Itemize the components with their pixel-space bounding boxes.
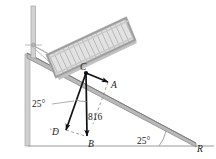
label-point-r: R <box>196 144 203 154</box>
label-force-magnitude: 816 <box>88 112 103 122</box>
dashed-d-to-b <box>66 130 85 136</box>
label-point-b: B <box>88 139 94 149</box>
label-angle-incline: 25° <box>137 136 151 146</box>
label-point-d: D <box>51 127 59 137</box>
label-point-a: A <box>110 80 117 90</box>
left-wall <box>25 54 30 146</box>
angle-arc-at-c <box>76 100 87 102</box>
crate-group <box>40 10 145 90</box>
figure-canvas: C A B D R 816 25° 25° <box>0 0 216 159</box>
angle-leader-left <box>52 101 74 104</box>
vector-c-to-a <box>86 73 108 82</box>
label-angle-cable: 25° <box>32 99 46 109</box>
vector-c-to-b <box>86 73 87 136</box>
vertical-pole <box>31 6 36 58</box>
angle-arc-at-r <box>159 131 166 146</box>
label-point-c: C <box>80 62 87 72</box>
statics-figure-crate-on-incline: C A B D R 816 25° 25° <box>0 0 216 159</box>
